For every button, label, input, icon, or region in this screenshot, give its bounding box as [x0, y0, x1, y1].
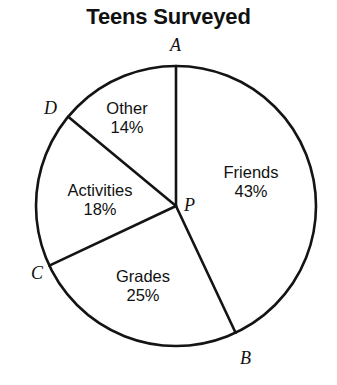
slice-name-friends: Friends [223, 163, 278, 181]
pie-chart-figure: Teens Surveyed Friends 43% Grades 25% Ac… [0, 0, 337, 385]
slice-label-activities: Activities 18% [45, 181, 155, 219]
point-label-P: P [184, 196, 195, 214]
point-label-C: C [31, 264, 43, 282]
slice-name-activities: Activities [67, 181, 132, 199]
slice-percent-friends: 43% [196, 182, 306, 201]
slice-label-other: Other 14% [82, 99, 172, 137]
point-label-A: A [170, 36, 181, 54]
point-label-B: B [240, 349, 251, 367]
slice-percent-activities: 18% [45, 200, 155, 219]
slice-label-grades: Grades 25% [88, 267, 198, 305]
slice-percent-other: 14% [82, 118, 172, 137]
slice-name-other: Other [106, 99, 147, 117]
slice-percent-grades: 25% [88, 286, 198, 305]
point-label-D: D [44, 99, 57, 117]
slice-name-grades: Grades [116, 267, 170, 285]
slice-label-friends: Friends 43% [196, 163, 306, 201]
